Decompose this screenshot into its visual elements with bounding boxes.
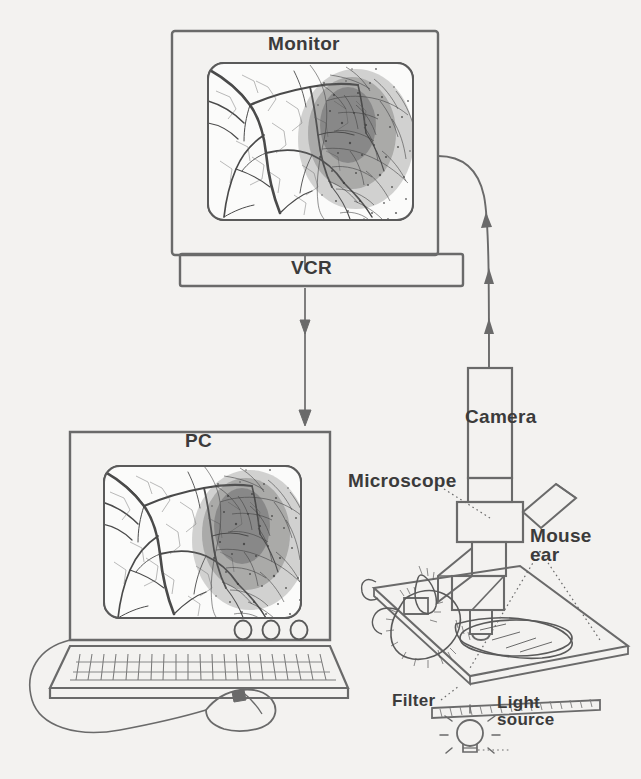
label-microscope: Microscope xyxy=(348,471,457,490)
pc-screen-image xyxy=(100,462,310,622)
label-vcr: VCR xyxy=(291,258,332,277)
diagram-illustration xyxy=(0,0,641,779)
label-light-source: Light source xyxy=(497,694,555,729)
label-monitor: Monitor xyxy=(268,34,340,53)
label-camera: Camera xyxy=(465,407,537,426)
label-mouse-ear: Mouse ear xyxy=(530,526,592,565)
label-pc: PC xyxy=(185,431,212,450)
monitor-screen-image xyxy=(206,61,416,221)
figure-canvas: Monitor VCR PC Camera Microscope Mouse e… xyxy=(0,0,641,779)
label-filter: Filter xyxy=(392,692,435,709)
